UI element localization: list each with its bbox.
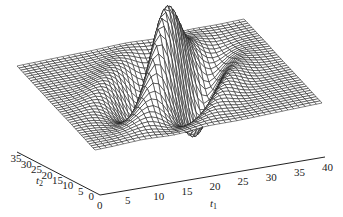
t1-tick-label: 25: [238, 175, 250, 187]
t1-axis: 0510152025303540 t1: [97, 157, 334, 211]
t2-tick-label: 15: [52, 174, 64, 186]
t2-tick-labels: 05101520253035: [10, 152, 94, 202]
t1-tick-label: 40: [322, 161, 334, 173]
t2-tick-label: 10: [62, 179, 74, 191]
t1-tick-label: 10: [153, 190, 165, 202]
t2-tick-label: 20: [42, 169, 54, 181]
surface-plot: 05101520253035 t2 0510152025303540 t1: [0, 0, 343, 217]
t2-tick-label: 30: [21, 158, 33, 170]
t1-tick-label: 5: [125, 194, 131, 206]
t1-axis-label: t1: [210, 197, 217, 211]
surface-mesh: [17, 6, 322, 151]
t1-tick-label: 35: [294, 166, 306, 178]
t2-axis: 05101520253035 t2: [10, 152, 100, 202]
t2-tick-label: 35: [10, 152, 22, 164]
t1-tick-label: 15: [181, 185, 193, 197]
t1-tick-label: 30: [266, 171, 278, 183]
t1-tick-label: 0: [97, 199, 103, 211]
t1-tick-label: 20: [210, 180, 222, 192]
t2-tick-label: 5: [78, 185, 84, 197]
t2-tick-label: 0: [89, 190, 95, 202]
